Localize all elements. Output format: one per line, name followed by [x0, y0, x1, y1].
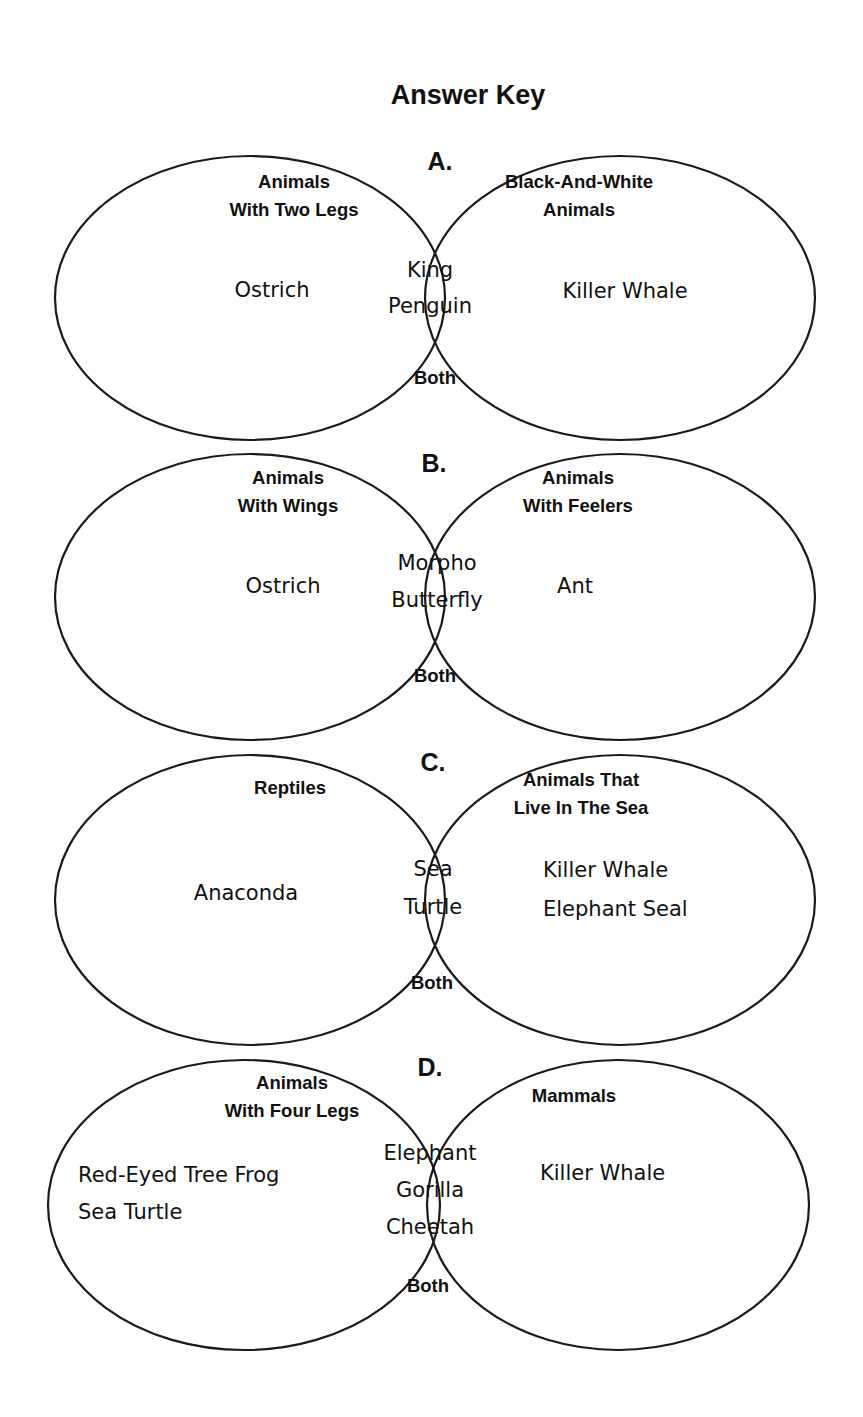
center-item-line-1: Sea: [413, 857, 452, 881]
left-heading-line-2: With Two Legs: [230, 199, 359, 220]
diagram-letter: C.: [421, 748, 446, 776]
left-item: Ostrich: [234, 278, 309, 302]
left-item: Ostrich: [245, 574, 320, 598]
venn-diagram-b: B. Animals With Wings Animals With Feele…: [55, 449, 815, 740]
right-heading-line-2: Live In The Sea: [514, 797, 649, 818]
right-heading-line-1: Black-And-White: [505, 171, 653, 192]
right-item-line-1: Killer Whale: [543, 858, 668, 882]
center-item-line-1: Elephant: [383, 1141, 476, 1165]
left-item: Anaconda: [194, 881, 298, 905]
center-item-line-2: Butterfly: [391, 588, 482, 612]
right-item: Ant: [557, 574, 593, 598]
center-item-line-1: King: [407, 258, 453, 282]
diagram-letter: D.: [418, 1053, 443, 1081]
center-item-line-2: Turtle: [403, 895, 463, 919]
left-heading-line-1: Animals: [256, 1072, 328, 1093]
right-heading-line-1: Animals: [542, 467, 614, 488]
venn-diagram-a: A. Animals With Two Legs Black-And-White…: [55, 147, 815, 440]
center-item-line-2: Penguin: [388, 294, 472, 318]
right-heading-line-2: With Feelers: [523, 495, 633, 516]
left-heading-line-1: Animals: [252, 467, 324, 488]
left-item-line-1: Red-Eyed Tree Frog: [78, 1163, 279, 1187]
right-item: Killer Whale: [540, 1161, 665, 1185]
left-heading-line-1: Animals: [258, 171, 330, 192]
answer-key-page: Answer Key A. Animals With Two Legs Blac…: [0, 0, 863, 1417]
right-heading-line-1: Mammals: [532, 1085, 616, 1106]
left-heading-line-1: Reptiles: [254, 777, 326, 798]
diagram-letter: B.: [422, 449, 447, 477]
right-item-line-2: Elephant Seal: [543, 897, 688, 921]
venn-diagram-c: C. Reptiles Animals That Live In The Sea…: [55, 748, 815, 1045]
left-heading-line-2: With Wings: [238, 495, 338, 516]
right-heading-line-1: Animals That: [523, 769, 639, 790]
left-item-line-2: Sea Turtle: [78, 1200, 182, 1224]
right-circle: [427, 1060, 809, 1350]
both-label: Both: [414, 367, 456, 388]
both-label: Both: [414, 665, 456, 686]
center-item-line-3: Cheetah: [386, 1215, 474, 1239]
venn-diagram-d: D. Animals With Four Legs Mammals Red-Ey…: [48, 1053, 809, 1350]
both-label: Both: [411, 972, 453, 993]
right-item: Killer Whale: [562, 279, 687, 303]
center-item-line-1: Morpho: [397, 551, 476, 575]
page-title: Answer Key: [391, 80, 546, 110]
center-item-line-2: Gorilla: [396, 1178, 464, 1202]
diagram-letter: A.: [428, 147, 453, 175]
left-heading-line-2: With Four Legs: [225, 1100, 359, 1121]
right-heading-line-2: Animals: [543, 199, 615, 220]
both-label: Both: [407, 1275, 449, 1296]
